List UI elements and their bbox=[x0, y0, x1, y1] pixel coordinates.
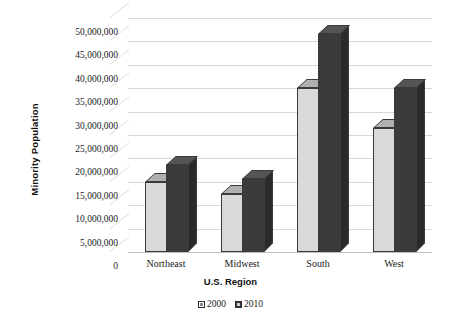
bar-front-face bbox=[318, 34, 340, 252]
y-axis-tick-label: 50,000,000 bbox=[75, 27, 122, 37]
bar-midwest-2010[interactable] bbox=[242, 179, 264, 252]
y-axis-tick-label: 25,000,000 bbox=[75, 144, 122, 154]
bar-northeast-2000[interactable] bbox=[145, 182, 167, 252]
bar-groups bbox=[128, 18, 432, 252]
legend-item-2000[interactable]: 2000 bbox=[198, 299, 226, 309]
bar-group bbox=[356, 18, 432, 252]
bar-front-face bbox=[394, 88, 416, 252]
bar-side-face bbox=[340, 25, 349, 252]
chart-legend: 20002010 bbox=[0, 299, 461, 309]
gridline bbox=[128, 252, 432, 253]
bar-front-face bbox=[145, 182, 167, 252]
y-axis-tick-label: 40,000,000 bbox=[75, 74, 122, 84]
y-axis-tick-label: 35,000,000 bbox=[75, 97, 122, 107]
bar-south-2010[interactable] bbox=[318, 34, 340, 252]
plot-area: 50,000,00045,000,00040,000,00035,000,000… bbox=[110, 18, 432, 252]
bar-side-face bbox=[416, 79, 425, 252]
x-axis-tick-label: Midwest bbox=[225, 258, 260, 269]
x-axis-title: U.S. Region bbox=[0, 276, 461, 287]
legend-swatch-icon bbox=[235, 301, 242, 308]
bar-west-2000[interactable] bbox=[373, 128, 395, 252]
minority-population-bar-chart: Minority Population 50,000,00045,000,000… bbox=[0, 0, 461, 316]
bar-front-face bbox=[221, 194, 243, 253]
bar-northeast-2010[interactable] bbox=[166, 165, 188, 252]
legend-swatch-icon bbox=[198, 301, 205, 308]
y-axis-tick-label: 5,000,000 bbox=[80, 238, 122, 248]
bar-west-2010[interactable] bbox=[394, 88, 416, 252]
x-axis-tick-label: Northeast bbox=[147, 258, 186, 269]
y-axis-tick-label: 45,000,000 bbox=[75, 50, 122, 60]
x-axis-tick-label: South bbox=[306, 258, 329, 269]
bar-side-face bbox=[264, 170, 273, 252]
y-axis-tick-label: 20,000,000 bbox=[75, 167, 122, 177]
bar-front-face bbox=[166, 165, 188, 252]
y-axis-tick-label: 15,000,000 bbox=[75, 191, 122, 201]
bar-midwest-2000[interactable] bbox=[221, 194, 243, 253]
y-axis-tick-label: 30,000,000 bbox=[75, 121, 122, 131]
y-axis-title: Minority Population bbox=[29, 70, 40, 230]
y-axis-tick-label: 0 bbox=[113, 261, 122, 271]
legend-label: 2010 bbox=[244, 299, 263, 309]
bar-group bbox=[280, 18, 356, 252]
bar-front-face bbox=[242, 179, 264, 252]
bar-south-2000[interactable] bbox=[297, 88, 319, 252]
bar-front-face bbox=[297, 88, 319, 252]
x-axis-tick-label: West bbox=[384, 258, 404, 269]
x-axis-tick-labels: NortheastMidwestSouthWest bbox=[128, 258, 432, 272]
legend-item-2010[interactable]: 2010 bbox=[235, 299, 263, 309]
bar-group bbox=[128, 18, 204, 252]
bar-group bbox=[204, 18, 280, 252]
y-axis-tick-label: 10,000,000 bbox=[75, 214, 122, 224]
bar-front-face bbox=[373, 128, 395, 252]
bar-side-face bbox=[188, 156, 197, 252]
legend-label: 2000 bbox=[207, 299, 226, 309]
